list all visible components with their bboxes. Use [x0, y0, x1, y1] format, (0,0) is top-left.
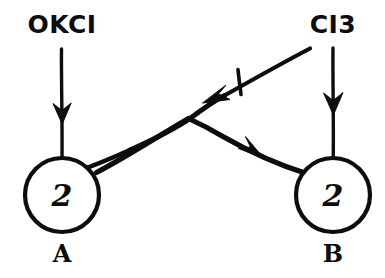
- right-input-arrow: [324, 48, 343, 159]
- right-input-label: CI3: [310, 10, 357, 39]
- inhibitor-tick-icon: [238, 70, 241, 95]
- node-b-label: B: [323, 239, 343, 268]
- left-input-arrow-shaft: [61, 49, 62, 159]
- node-a[interactable]: 2 A: [25, 158, 99, 268]
- node-a-label: A: [52, 239, 72, 268]
- crossing-inhibitor-arrow: [86, 49, 310, 169]
- diagram-canvas: 2 A 2 B OKCI CI3: [0, 0, 385, 278]
- a-to-b-arrow: [97, 119, 307, 174]
- left-input-arrow: [53, 49, 71, 159]
- node-a-token-value: 2: [51, 178, 73, 213]
- node-b[interactable]: 2 B: [296, 158, 370, 268]
- network-diagram: 2 A 2 B OKCI CI3: [0, 0, 385, 278]
- left-input-label: OKCI: [27, 10, 96, 39]
- node-b-token-value: 2: [322, 178, 344, 213]
- a-to-b-arrow-shaft-lower: [189, 119, 307, 174]
